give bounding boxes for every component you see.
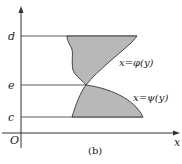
- label-phi-curve: x=φ(y): [119, 57, 154, 68]
- label-d: d: [8, 30, 15, 43]
- label-c: c: [8, 111, 14, 124]
- label-e: e: [8, 79, 15, 92]
- label-x-axis: x: [174, 136, 181, 149]
- y-axis-arrow-icon: [19, 6, 24, 13]
- label-psi-curve: x=ψ(y): [133, 92, 168, 103]
- label-origin: O: [10, 134, 19, 147]
- figure-caption: (b): [88, 145, 102, 156]
- x-axis-arrow-icon: [173, 131, 180, 136]
- region-diagram: d e c O x x=φ(y) x=ψ(y) (b): [0, 0, 182, 164]
